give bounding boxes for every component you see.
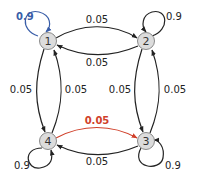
edge-1-to-2 xyxy=(56,27,137,38)
self-loop-4-label: 0.9 xyxy=(14,160,30,171)
edge-3-to-2 xyxy=(150,50,159,133)
edge-2-to-1-label: 0.05 xyxy=(86,57,108,68)
node-2-label: 2 xyxy=(143,35,150,48)
edge-4-to-1-label: 0.05 xyxy=(65,84,87,95)
markov-chain-diagram: 1 2 3 4 0.9 0.9 0.9 0.9 0.05 0.05 0.05 0… xyxy=(0,0,197,178)
edge-4-to-3-highlighted xyxy=(56,128,137,139)
node-1: 1 xyxy=(40,33,57,50)
edge-4-to-3-label: 0.05 xyxy=(85,115,110,126)
edge-2-to-3 xyxy=(135,49,143,132)
node-4: 4 xyxy=(40,133,57,150)
edge-2-to-1 xyxy=(57,45,138,55)
self-loop-3-label: 0.9 xyxy=(165,160,181,171)
node-2: 2 xyxy=(138,33,155,50)
edge-1-to-2-label: 0.05 xyxy=(86,14,108,25)
edge-4-to-1 xyxy=(52,50,61,133)
self-loop-4 xyxy=(28,148,52,168)
node-1-label: 1 xyxy=(45,35,52,48)
edge-3-to-2-label: 0.05 xyxy=(164,84,186,95)
self-loop-1-label: 0.9 xyxy=(16,11,34,22)
edge-1-to-4 xyxy=(37,49,45,132)
edge-2-to-3-label: 0.05 xyxy=(109,84,131,95)
node-3-label: 3 xyxy=(143,135,150,148)
self-loop-2-label: 0.9 xyxy=(166,11,182,22)
edge-1-to-4-label: 0.05 xyxy=(10,84,32,95)
node-4-label: 4 xyxy=(45,135,52,148)
edge-3-to-4-label: 0.05 xyxy=(86,156,108,167)
node-3: 3 xyxy=(138,133,155,150)
edge-3-to-4 xyxy=(57,145,138,155)
